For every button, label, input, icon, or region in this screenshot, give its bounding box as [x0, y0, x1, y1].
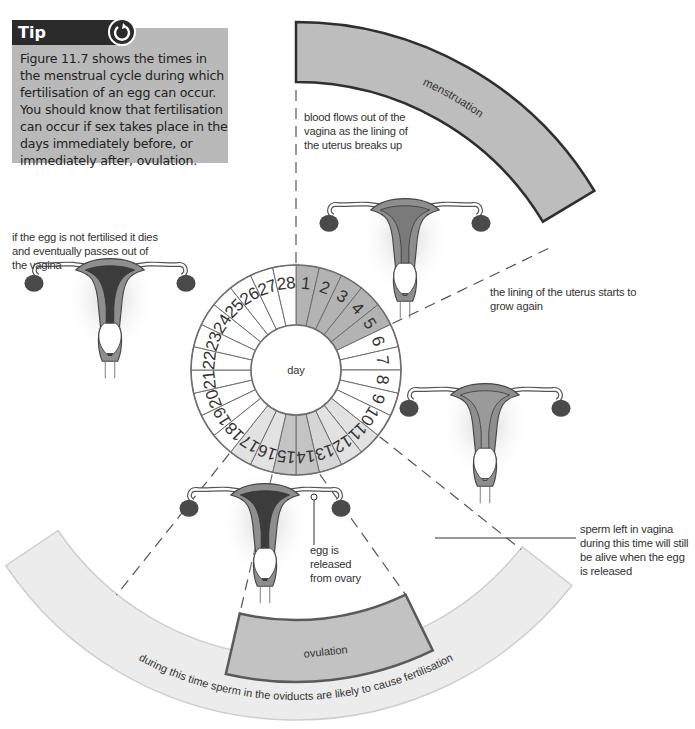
annotation-egg-released: egg is released from ovary — [310, 543, 362, 585]
ovary-left — [320, 215, 339, 232]
annotation-egg-dies: if the egg is not fertilised it dies and… — [12, 230, 162, 272]
ovary-left — [400, 400, 419, 417]
cervix — [474, 448, 496, 478]
day-label-14: 14 — [295, 446, 316, 467]
day-label-28: 28 — [276, 273, 297, 294]
annotation-sperm-vagina: sperm left in vagina during this time wi… — [580, 522, 695, 578]
cervix — [99, 323, 121, 353]
wheel-center-label: day — [287, 364, 305, 376]
ovary-left — [24, 275, 43, 292]
cervix — [394, 263, 416, 293]
ovary-right — [177, 275, 196, 292]
uterus-lining-growing — [400, 367, 571, 504]
tip-heading: Tip — [12, 20, 118, 45]
day-wheel: 1234567891011121314151617181920212223242… — [191, 265, 401, 475]
ovary-right — [332, 500, 351, 517]
annotation-menstruation: blood flows out of the vagina as the lin… — [304, 110, 416, 152]
annotation-lining-grows: the lining of the uterus starts to grow … — [490, 285, 640, 313]
refresh-icon — [108, 18, 136, 46]
egg-icon — [311, 494, 317, 500]
tip-text: Figure 11.7 shows the times in the menst… — [20, 50, 230, 169]
ovary-right — [552, 400, 571, 417]
ovary-left — [180, 500, 199, 517]
ovary-right — [472, 215, 491, 232]
cervix — [254, 548, 276, 578]
guide-day17-line — [116, 454, 229, 596]
day-label-21: 21 — [199, 369, 220, 390]
